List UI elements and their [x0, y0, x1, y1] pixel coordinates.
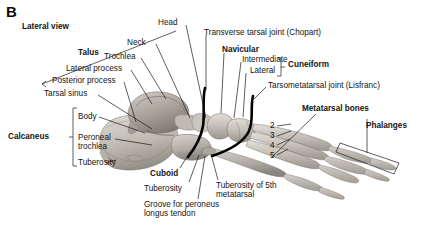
label-tarsometatarsal-joint: Tarsometatarsal joint (Lisfranc) — [268, 81, 380, 90]
bone-talus — [128, 92, 213, 135]
label-phalanges: Phalanges — [366, 121, 407, 130]
label-tuberosity-calcaneus: Tuberosity — [78, 158, 116, 167]
label-tuberosity-cuboid: Tuberosity — [144, 184, 182, 193]
label-tarsal-sinus: Tarsal sinus — [44, 89, 87, 98]
leader-lisfranc — [254, 87, 266, 99]
label-head: Head — [158, 18, 178, 27]
label-metatarsal-bones: Metatarsal bones — [302, 104, 369, 113]
label-peroneal-trochlea: Peroneal trochlea — [78, 133, 111, 152]
label-transverse-tarsal-joint: Transverse tarsal joint (Chopart) — [204, 28, 321, 37]
label-cuneiform: Cuneiform — [288, 60, 329, 69]
label-cuboid: Cuboid — [150, 169, 178, 178]
metatarsal-number-2: 2 — [270, 121, 275, 130]
leader-head — [186, 25, 206, 118]
view-label: Lateral view — [22, 22, 69, 31]
leader-metatarsal-2 — [277, 124, 291, 126]
bone-cuboid — [171, 134, 211, 160]
label-neck: Neck — [127, 38, 146, 47]
label-trochlea: Trochlea — [104, 52, 136, 61]
label-groove-peroneus: Groove for peroneus longus tendon — [144, 200, 219, 219]
foot-anatomy-figure: B Lateral view Talus Head Neck Trochlea … — [0, 0, 422, 233]
calcaneus-bracket — [69, 108, 77, 166]
label-tuberosity-5th-metatarsal: Tuberosity of 5th metatarsal — [216, 181, 277, 200]
label-calcaneus: Calcaneus — [8, 132, 49, 141]
label-lateral-process: Lateral process — [66, 64, 122, 73]
metatarsal-number-4: 4 — [270, 141, 275, 150]
label-intermediate: Intermediate — [242, 55, 288, 64]
metatarsal-number-3: 3 — [270, 131, 275, 140]
leader-navicular — [221, 53, 224, 113]
leader-intermediate — [234, 62, 241, 118]
leader-tuberosity-5th — [211, 154, 218, 180]
label-lateral: Lateral — [250, 66, 275, 75]
label-talus: Talus — [78, 48, 99, 57]
leader-lateral — [243, 73, 246, 117]
label-body: Body — [78, 112, 97, 121]
label-posterior-process: Posterior process — [52, 76, 116, 85]
label-navicular: Navicular — [222, 45, 259, 54]
metatarsal-number-5: 5 — [270, 151, 275, 160]
leader-groove-peroneus — [198, 156, 205, 199]
panel-letter: B — [6, 3, 17, 20]
